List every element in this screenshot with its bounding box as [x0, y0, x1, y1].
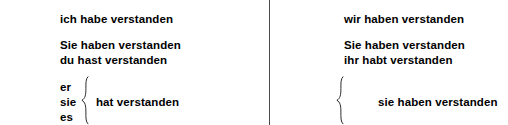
singular-second-person-line: du hast verstanden	[60, 54, 167, 66]
singular-pronoun-sie: sie	[60, 96, 76, 108]
plural-first-person-line: wir haben verstanden	[344, 13, 464, 25]
singular-first-person-line: ich habe verstanden	[60, 13, 173, 25]
singular-third-person-verb: hat verstanden	[96, 96, 179, 108]
conjugation-table-page: ich habe verstanden Sie haben verstanden…	[0, 0, 508, 125]
curly-brace-icon	[336, 76, 346, 125]
plural-column: wir haben verstanden Sie haben verstande…	[270, 0, 508, 125]
plural-second-person-line: ihr habt verstanden	[344, 54, 453, 66]
singular-column: ich habe verstanden Sie haben verstanden…	[0, 0, 269, 125]
plural-third-person-verb: sie haben verstanden	[378, 96, 498, 108]
singular-pronoun-es: es	[60, 111, 73, 123]
plural-polite-line: Sie haben verstanden	[344, 39, 465, 51]
singular-pronoun-er: er	[60, 81, 71, 93]
singular-polite-line: Sie haben verstanden	[60, 39, 181, 51]
curly-brace-icon	[81, 76, 91, 125]
